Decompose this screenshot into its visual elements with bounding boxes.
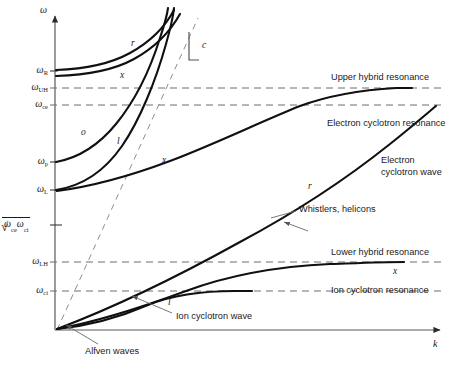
annotation-lower-hybrid-resonance: Lower hybrid resonance	[331, 247, 429, 257]
curve-x-upper	[56, 14, 180, 76]
leader-alfven	[66, 325, 98, 344]
curve-label-x-middle: x	[162, 155, 166, 165]
slope-marker-c	[189, 32, 199, 60]
axis-ticks	[50, 71, 62, 225]
x-axis-label: k	[433, 338, 437, 349]
annotation-alfven-waves: Alfven waves	[85, 346, 139, 356]
curve-x-middle	[57, 88, 412, 191]
y-tick-label-wLH: ωLH	[0, 255, 48, 266]
leader-whistlers-arrow	[284, 222, 308, 231]
y-axis-label: ω	[40, 4, 47, 15]
annotation-ion-cyclotron-wave: Ion cyclotron wave	[176, 311, 252, 321]
annotation-ion-cyclotron-resonance: Ion cyclotron resonance	[331, 285, 429, 295]
annotation-upper-hybrid-resonance: Upper hybrid resonance	[331, 72, 429, 82]
y-tick-label-sqrt-wce-wci: ωceωci √	[2, 216, 30, 230]
dispersion-diagram-figure: ω k ωR ωUH ωce ωp ωL ωceωci √ ωLH ωci c …	[0, 0, 449, 373]
y-tick-label-wR: ωR	[6, 64, 48, 75]
light-line-c	[57, 18, 198, 330]
curve-label-r-whistler: r	[308, 181, 312, 191]
curve-r-whistler	[57, 106, 436, 329]
curve-label-x-upper: x	[120, 70, 124, 80]
y-tick-label-wUH: ωUH	[0, 81, 48, 92]
curve-label-l-ion: l	[168, 297, 171, 307]
y-tick-label-wci: ωci	[0, 284, 48, 295]
dispersion-curves	[56, 8, 436, 329]
curve-label-r-upper: r	[131, 38, 135, 48]
curve-label-x-lower: x	[393, 266, 397, 276]
annotation-whistlers-helicons: Whistlers, helicons	[299, 204, 376, 214]
curve-r-upper	[56, 10, 174, 70]
annotation-electron-cyclotron-wave: Electroncyclotron wave	[381, 155, 442, 178]
annotation-leaders	[66, 211, 308, 344]
curve-label-o-mode: o	[81, 127, 86, 137]
curve-o-mode	[56, 8, 168, 162]
slope-marker-label-c: c	[202, 40, 206, 50]
curve-label-l-mode: l	[117, 136, 120, 146]
y-tick-label-wL: ωL	[6, 183, 48, 194]
y-tick-label-wce: ωce	[0, 98, 48, 109]
y-tick-label-wp: ωp	[6, 155, 48, 166]
annotation-electron-cyclotron-resonance: Electron cyclotron resonance	[327, 118, 445, 128]
curve-l-mode	[56, 8, 174, 190]
